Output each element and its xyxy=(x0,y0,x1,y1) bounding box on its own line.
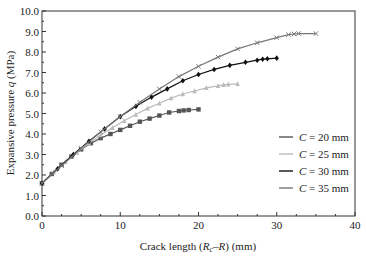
series-c-25-mm xyxy=(40,81,240,185)
series-c-35-mm xyxy=(40,31,318,185)
y-tick-label: 5.0 xyxy=(25,108,39,120)
y-tick-label: 10.0 xyxy=(20,5,40,17)
legend-label: C = 20 mm xyxy=(299,131,349,143)
x-axis: 010203040 xyxy=(39,212,361,231)
x-tick-label: 20 xyxy=(193,219,205,231)
y-tick-label: 2.0 xyxy=(25,169,39,181)
series-c-30-mm xyxy=(40,55,279,186)
legend: C = 20 mmC = 25 mmC = 30 mmC = 35 mm xyxy=(279,131,349,194)
legend-label: C = 25 mm xyxy=(299,148,349,160)
legend-item: C = 20 mm xyxy=(279,131,349,143)
y-tick-label: 7.0 xyxy=(25,67,39,79)
y-tick-label: 6.0 xyxy=(25,87,39,99)
y-tick-label: 3.0 xyxy=(25,149,39,161)
x-tick-label: 10 xyxy=(115,219,127,231)
y-tick-label: 1.0 xyxy=(25,190,39,202)
y-tick-label: 8.0 xyxy=(25,46,39,58)
x-tick-label: 40 xyxy=(350,219,362,231)
series-layer xyxy=(40,31,318,186)
y-tick-label: 0.0 xyxy=(25,210,39,222)
x-tick-label: 30 xyxy=(271,219,283,231)
x-tick-label: 0 xyxy=(39,219,45,231)
y-tick-label: 4.0 xyxy=(25,128,39,140)
legend-label: C = 30 mm xyxy=(299,165,349,177)
legend-item: C = 25 mm xyxy=(279,148,349,160)
y-tick-label: 9.0 xyxy=(25,26,39,38)
legend-item: C = 35 mm xyxy=(279,182,349,194)
y-axis-label: Expansive pressure q (MPa) xyxy=(4,50,17,175)
x-axis-label: Crack length (Rc–R) (mm) xyxy=(140,240,257,254)
legend-label: C = 35 mm xyxy=(299,182,349,194)
line-chart: 0.01.02.03.04.05.06.07.08.09.010.0 01020… xyxy=(0,0,366,256)
legend-item: C = 30 mm xyxy=(279,165,349,177)
